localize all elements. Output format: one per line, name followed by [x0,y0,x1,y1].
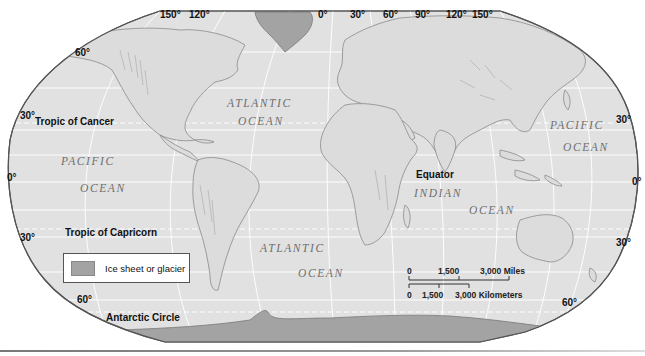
atlantic-ocean-north-line2: OCEAN [238,116,284,128]
scale-miles-1500: 1,500 [438,266,459,276]
longitude-label-150e: 150° [472,10,493,20]
antarctic-circle-label: Antarctic Circle [106,313,180,323]
latitude-label-30s-left: 30° [20,233,35,243]
longitude-label-120e: 120° [446,10,467,20]
scale-km-0: 0 [407,290,412,300]
indian-ocean-line1: INDIAN [414,188,462,200]
page-divider [0,350,645,352]
indian-ocean-line2: OCEAN [469,205,515,217]
latitude-label-60n-left: 60° [75,48,90,58]
longitude-label-150w: 150° [160,10,181,20]
longitude-label-0: 0° [318,10,328,20]
longitude-label-120w: 120° [189,10,210,20]
equator-label: Equator [416,170,454,180]
longitude-label-60e: 60° [383,10,398,20]
scale-miles-3000: 3,000 Miles [480,266,525,276]
atlantic-ocean-north-line1: ATLANTIC [227,98,292,110]
atlantic-ocean-south-line2: OCEAN [298,268,344,280]
ice-sheet-swatch [71,261,95,276]
tropic-of-cancer-label: Tropic of Cancer [35,117,114,127]
latitude-label-30n-left: 30° [20,111,35,121]
latitude-label-30n-right: 30° [616,115,631,125]
latitude-label-60s-right: 60° [562,298,577,308]
scale-bar: 0 1,500 3,000 Miles 0 1,500 3,000 Kilome… [405,266,545,306]
latitude-label-30s-right: 30° [616,238,631,248]
scale-km-1500: 1,500 [422,290,443,300]
world-map [0,0,645,356]
longitude-label-30e: 30° [350,10,365,20]
tropic-of-capricorn-label: Tropic of Capricorn [65,228,157,238]
atlantic-ocean-south-line1: ATLANTIC [260,243,325,255]
scale-miles-0: 0 [407,266,412,276]
pacific-ocean-east-line2: OCEAN [563,142,609,154]
longitude-label-90e: 90° [415,10,430,20]
pacific-ocean-west-line1: PACIFIC [61,156,115,168]
latitude-label-60s-left: 60° [77,295,92,305]
pacific-ocean-west-line2: OCEAN [80,183,126,195]
legend-label-ice-sheet: Ice sheet or glacier [105,263,185,274]
map-legend: Ice sheet or glacier [63,253,190,283]
pacific-ocean-east-line1: PACIFIC [550,120,604,132]
scale-km-3000: 3,000 Kilometers [455,290,523,300]
latitude-label-0-right: 0° [632,177,642,187]
latitude-label-0-left: 0° [7,173,17,183]
